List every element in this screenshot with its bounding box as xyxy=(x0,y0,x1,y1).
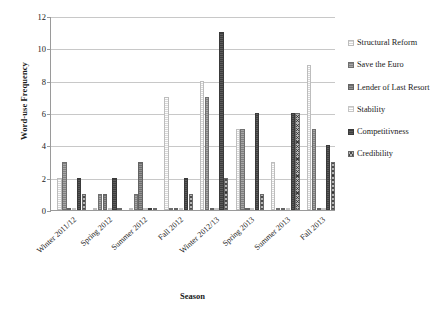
bar xyxy=(321,208,325,210)
bar xyxy=(219,32,223,210)
x-tick-label: Fall 2013 xyxy=(299,215,328,242)
bar-chart: Word-use Frequency 024681012 Winter 2011… xyxy=(0,0,448,319)
bar xyxy=(72,208,76,210)
x-tick-label: Summer 2013 xyxy=(252,215,292,252)
bar xyxy=(295,113,299,210)
bar xyxy=(77,178,81,210)
y-tick-label: 8 xyxy=(42,77,46,87)
bar-group xyxy=(164,17,193,210)
bar xyxy=(153,208,157,210)
bar xyxy=(281,208,285,210)
y-tick-label: 6 xyxy=(42,109,46,119)
y-tick-label: 2 xyxy=(42,174,46,184)
bar xyxy=(245,208,249,210)
bar-group xyxy=(93,17,122,210)
bar xyxy=(250,208,254,210)
bar xyxy=(205,97,209,210)
plot-area: 024681012 xyxy=(50,17,335,211)
legend-label: Lender of Last Resort xyxy=(357,83,430,93)
bar-group xyxy=(129,17,158,210)
legend-item[interactable]: Lender of Last Resort xyxy=(348,83,448,93)
bar xyxy=(98,194,102,210)
bar xyxy=(331,162,335,211)
bar xyxy=(108,208,112,210)
bar-group xyxy=(236,17,265,210)
bar xyxy=(189,194,193,210)
bar xyxy=(129,208,133,210)
bar xyxy=(224,178,228,210)
x-tick-label: Spring 2013 xyxy=(221,215,256,248)
y-tick-mark xyxy=(47,17,51,18)
bar xyxy=(260,194,264,210)
legend-label: Structural Reform xyxy=(357,38,417,48)
y-tick-mark xyxy=(47,49,51,50)
bar xyxy=(184,178,188,210)
y-tick-mark xyxy=(47,179,51,180)
y-tick-label: 0 xyxy=(42,206,46,216)
legend-item[interactable]: Competitivness xyxy=(348,127,448,137)
bar-group xyxy=(200,17,229,210)
bar xyxy=(134,194,138,210)
bar xyxy=(169,208,173,210)
legend-item[interactable]: Structural Reform xyxy=(348,38,448,48)
legend-item[interactable]: Credibility xyxy=(348,149,448,159)
x-tick-label: Fall 2012 xyxy=(156,215,185,242)
legend-swatch-icon xyxy=(348,62,354,68)
bar xyxy=(93,208,97,210)
y-tick-mark xyxy=(47,82,51,83)
bar xyxy=(82,194,86,210)
legend-swatch-icon xyxy=(348,151,354,157)
bar xyxy=(57,178,61,210)
legend-swatch-icon xyxy=(348,84,354,90)
legend-label: Competitivness xyxy=(357,127,409,137)
bar xyxy=(276,208,280,210)
bar xyxy=(164,97,168,210)
y-tick-mark xyxy=(47,146,51,147)
legend-swatch-icon xyxy=(348,129,354,135)
legend-item[interactable]: Stability xyxy=(348,105,448,115)
y-tick-label: 4 xyxy=(42,141,46,151)
legend-label: Save the Euro xyxy=(357,60,404,70)
bar xyxy=(174,208,178,210)
bar-group xyxy=(271,17,300,210)
y-tick-label: 12 xyxy=(38,12,47,22)
bar xyxy=(67,208,71,210)
x-tick-label: Summer 2012 xyxy=(110,215,150,252)
bar xyxy=(148,208,152,210)
bar xyxy=(307,65,311,211)
bar xyxy=(143,208,147,210)
legend-label: Credibility xyxy=(357,149,393,159)
bar xyxy=(103,194,107,210)
legend-swatch-icon xyxy=(348,106,354,112)
bar xyxy=(200,81,204,210)
chart-legend: Structural ReformSave the EuroLender of … xyxy=(348,38,448,172)
bar xyxy=(291,113,295,210)
legend-item[interactable]: Save the Euro xyxy=(348,60,448,70)
bar xyxy=(210,208,214,210)
y-tick-mark xyxy=(47,114,51,115)
bar xyxy=(214,208,218,210)
bar xyxy=(326,145,330,210)
y-axis-title: Word-use Frequency xyxy=(19,41,29,161)
x-axis-title: Season xyxy=(50,291,335,301)
bar-group xyxy=(57,17,86,210)
x-tick-label: Spring 2012 xyxy=(78,215,113,248)
bar xyxy=(117,208,121,210)
bar xyxy=(112,178,116,210)
bar xyxy=(255,113,259,210)
legend-swatch-icon xyxy=(348,40,354,46)
bar xyxy=(271,162,275,211)
legend-label: Stability xyxy=(357,105,385,115)
bar xyxy=(312,129,316,210)
bar xyxy=(317,208,321,210)
x-tick-label: Winter 2011/12 xyxy=(35,215,78,255)
bar xyxy=(138,162,142,211)
y-tick-label: 10 xyxy=(38,44,47,54)
bar xyxy=(286,208,290,210)
bar xyxy=(240,129,244,210)
bar xyxy=(62,162,66,211)
bar-group xyxy=(307,17,336,210)
bar xyxy=(236,129,240,210)
y-tick-mark xyxy=(47,211,51,212)
bar xyxy=(179,208,183,210)
